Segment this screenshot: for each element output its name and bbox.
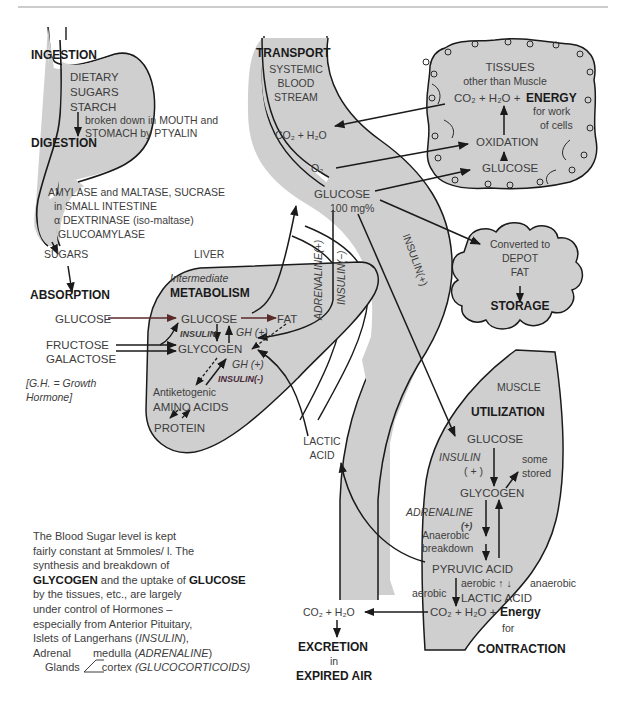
liver-glucose: GLUCOSE <box>181 312 237 326</box>
blood-co2-h2o: CO₂ + H₂O <box>275 129 327 142</box>
anaerobic-label: Anaerobic <box>422 529 469 542</box>
para-text: ), <box>182 632 189 644</box>
ingestion-heading: INGESTION <box>31 48 97 62</box>
liver-gh-plus-1: GH (+) <box>236 326 268 339</box>
para-text: cortex <box>102 661 135 673</box>
para-text: ) <box>208 647 212 659</box>
lactic-label: LACTIC <box>300 435 344 448</box>
tissues-heading: TISSUES <box>455 60 565 74</box>
intermediate-label: Intermediate <box>170 272 228 285</box>
para-line: fairly constant at 5mmoles/ l. The <box>33 544 273 559</box>
glucose-emphasis: GLUCOSE <box>189 574 246 586</box>
muscle-insulin-plus: ( + ) <box>464 465 483 478</box>
dietary-label: DIETARY <box>70 70 119 84</box>
para-text: Adrenal <box>33 647 71 659</box>
enzymes-line-1: AMYLASE and MALTASE, SUCRASE <box>48 186 225 199</box>
metabolism-heading: METABOLISM <box>170 286 250 300</box>
ptyalin-text: STOMACH by PTYALIN <box>85 127 197 140</box>
expired-air-label: EXPIRED AIR <box>296 669 372 683</box>
muscle-glycogen: GLYCOGEN <box>460 486 524 500</box>
for-work-label: for work <box>533 105 570 118</box>
absorbed-galactose: GALACTOSE <box>46 352 116 366</box>
glucocorticoids-italic: (GLUCOCORTICOIDS) <box>135 661 250 673</box>
enzymes-line-4: GLUCOAMYLASE <box>58 228 145 241</box>
absorbed-glucose: GLUCOSE <box>55 312 111 326</box>
para-text: and the uptake of <box>98 574 189 586</box>
explanation-paragraph: The Blood Sugar level is kept fairly con… <box>33 529 273 675</box>
muscle-energy: Energy <box>500 605 541 619</box>
blood-glucose-level: 100 mg% <box>330 202 374 215</box>
stream-label: STREAM <box>266 91 326 104</box>
enzymes-line-2: in SMALL INTESTINE <box>54 200 157 213</box>
para-line: by the tissues, etc., are largely <box>33 587 273 602</box>
sugars-output-label: SUGARS <box>44 248 88 261</box>
enzymes-line-3: α DEXTRINASE (iso-maltase) <box>54 214 194 227</box>
fat-label: FAT <box>484 266 556 279</box>
for-label: for <box>502 622 514 635</box>
protein-label: PROTEIN <box>154 421 205 435</box>
liver-insulin-minus: INSULIN(-) <box>218 372 263 386</box>
starch-label: STARCH <box>70 100 116 114</box>
breakdown-label: breakdown <box>422 542 473 555</box>
some-label: some <box>522 453 548 466</box>
excretion-co2-h2o: CO₂ + H₂O <box>303 606 355 619</box>
of-cells-label: of cells <box>540 119 573 132</box>
liver-insulin-label: INSULIN <box>180 327 216 341</box>
muscle-products: CO₂ + H₂O + <box>430 605 496 619</box>
para-text: Islets of Langerhans ( <box>33 632 139 644</box>
liver-gh-plus-2: GH (+) <box>232 358 264 371</box>
muscle-adrenaline-label: ADRENALINE <box>406 506 473 519</box>
para-text: medulla ( <box>93 647 138 659</box>
liver-fat: FAT <box>277 312 297 326</box>
para-line: The Blood Sugar level is kept <box>33 529 273 544</box>
insulin-italic: INSULIN <box>139 632 182 644</box>
excretion-in: in <box>330 655 338 668</box>
acid-label: ACID <box>300 449 344 462</box>
para-line: especially from Anterior Pituitary, <box>33 617 273 632</box>
absorbed-fructose: FRUCTOSE <box>46 338 109 352</box>
para-line: synthesis and breakdown of <box>33 558 273 573</box>
muscle-label: MUSCLE <box>497 381 541 394</box>
oxidation-label: OXIDATION <box>476 135 538 149</box>
systemic-label: SYSTEMIC <box>266 63 326 76</box>
tissues-products: CO₂ + H₂O + <box>454 91 520 105</box>
excretion-heading: EXCRETION <box>298 640 368 654</box>
aerobic-arrows-label: aerobic ↑ ↓ <box>461 577 512 590</box>
converted-label: Converted to <box>484 238 556 251</box>
aerobic-left-label: aerobic <box>412 587 446 600</box>
stored-label: stored <box>522 467 551 480</box>
storage-heading: STORAGE <box>484 299 556 313</box>
insulin-minus-label: INSULIN(−) <box>335 250 348 305</box>
muscle-lactic-acid: LACTIC ACID <box>461 591 532 605</box>
amino-acids-label: AMINO ACIDS <box>153 400 228 414</box>
contraction-heading: CONTRACTION <box>477 642 566 656</box>
para-line: under control of Hormones – <box>33 602 273 617</box>
para-text: Glands <box>45 661 80 673</box>
antiketogenic-label: Antiketogenic <box>153 386 216 399</box>
tissues-glucose: GLUCOSE <box>482 161 538 175</box>
tissues-subtitle: other than Muscle <box>445 75 565 88</box>
adrenaline-italic: ADRENALINE <box>138 647 208 659</box>
pyruvic-acid-label: PYRUVIC ACID <box>432 562 513 576</box>
gh-note-line-2: Hormone] <box>26 391 72 404</box>
muscle-glucose: GLUCOSE <box>467 432 523 446</box>
blood-glucose: GLUCOSE <box>314 187 370 201</box>
sugars-label: SUGARS <box>70 85 119 99</box>
liver-label: LIVER <box>194 248 224 261</box>
anaerobic-right-label: anaerobic <box>530 577 576 590</box>
utilization-heading: UTILIZATION <box>471 405 545 419</box>
broken-down-text: broken down in MOUTH and <box>85 114 218 127</box>
gh-note-line-1: [G.H. = Growth <box>26 377 96 390</box>
depot-label: DEPOT <box>484 252 556 265</box>
adrenaline-plus-label: ADRENALINE(+) <box>312 240 325 320</box>
liver-glycogen: GLYCOGEN <box>178 342 242 356</box>
digestion-heading: DIGESTION <box>31 136 97 150</box>
blood-sugar-diagram: INGESTION DIETARY SUGARS STARCH broken d… <box>0 0 626 702</box>
muscle-insulin-label: INSULIN <box>439 451 480 464</box>
blood-label: BLOOD <box>266 77 326 90</box>
absorption-heading: ABSORPTION <box>30 288 110 302</box>
tissues-energy: ENERGY <box>526 91 577 105</box>
glycogen-emphasis: GLYCOGEN <box>33 574 98 586</box>
transport-heading: TRANSPORT <box>256 46 331 60</box>
blood-o2: O₂ <box>311 162 323 175</box>
